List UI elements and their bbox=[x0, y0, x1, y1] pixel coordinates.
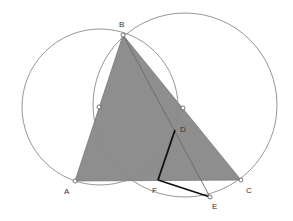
label-e: E bbox=[212, 202, 217, 211]
geometry-diagram: A B C D E F bbox=[0, 0, 293, 221]
point-b[interactable] bbox=[121, 33, 125, 37]
point-c[interactable] bbox=[239, 178, 243, 182]
label-c: C bbox=[246, 186, 252, 195]
label-d: D bbox=[180, 125, 186, 134]
label-b: B bbox=[119, 20, 124, 29]
point-o1[interactable] bbox=[97, 105, 101, 109]
label-a: A bbox=[64, 187, 70, 196]
point-o2[interactable] bbox=[181, 106, 185, 110]
point-a[interactable] bbox=[73, 179, 77, 183]
label-f: F bbox=[152, 186, 157, 195]
point-e[interactable] bbox=[208, 195, 212, 199]
